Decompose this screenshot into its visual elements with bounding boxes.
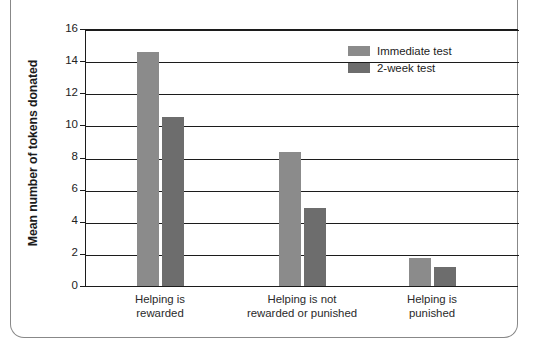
y-axis-tick-label: 10 xyxy=(52,118,78,130)
legend-item: Immediate test xyxy=(348,43,498,58)
bar-chart: Mean number of tokens donated 1614121086… xyxy=(0,0,538,353)
x-axis-category-label: Helping ispunished xyxy=(362,292,502,320)
bar xyxy=(137,52,159,287)
y-axis-tick-label: 8 xyxy=(52,150,78,162)
bar xyxy=(162,117,184,286)
bar xyxy=(409,258,431,286)
y-axis-tick-label: 2 xyxy=(52,246,78,258)
y-axis-tick-label: 12 xyxy=(52,86,78,98)
legend: Immediate test2-week test xyxy=(348,43,498,77)
x-axis-category-label-line: punished xyxy=(362,306,502,320)
legend-swatch-icon xyxy=(348,46,370,56)
y-axis-tick-label: 0 xyxy=(52,279,78,291)
bar xyxy=(434,267,456,286)
legend-label: Immediate test xyxy=(377,45,452,57)
bar xyxy=(279,152,301,286)
y-axis-tick-label: 4 xyxy=(52,214,78,226)
bar xyxy=(304,208,326,286)
y-axis-tick-label: 6 xyxy=(52,182,78,194)
y-axis-tick-label: 16 xyxy=(52,22,78,34)
y-axis-tick-label: 14 xyxy=(52,54,78,66)
x-axis-category-label-line: Helping is xyxy=(362,292,502,306)
legend-label: 2-week test xyxy=(377,62,435,74)
legend-item: 2-week test xyxy=(348,60,498,75)
legend-swatch-icon xyxy=(348,63,370,73)
y-axis-title: Mean number of tokens donated xyxy=(26,28,40,278)
